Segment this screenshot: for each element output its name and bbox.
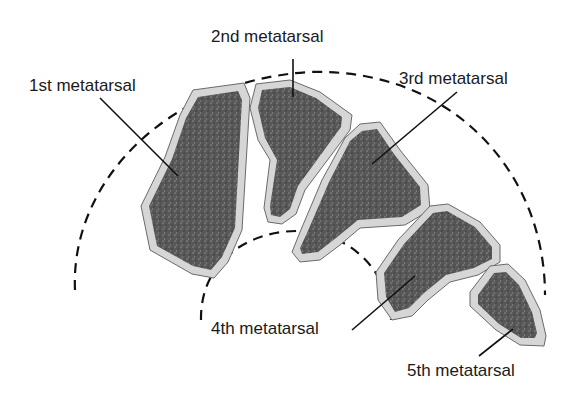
- label-5th-metatarsal: 5th metatarsal: [407, 362, 515, 379]
- label-3rd-metatarsal: 3rd metatarsal: [399, 70, 508, 87]
- leader-line-1st: [100, 98, 178, 176]
- label-1st-metatarsal: 1st metatarsal: [29, 77, 136, 94]
- leader-line-5th: [479, 329, 513, 356]
- label-2nd-metatarsal: 2nd metatarsal: [211, 28, 323, 45]
- label-4th-metatarsal: 4th metatarsal: [211, 320, 319, 337]
- bone-1st-metatarsal: [141, 83, 250, 278]
